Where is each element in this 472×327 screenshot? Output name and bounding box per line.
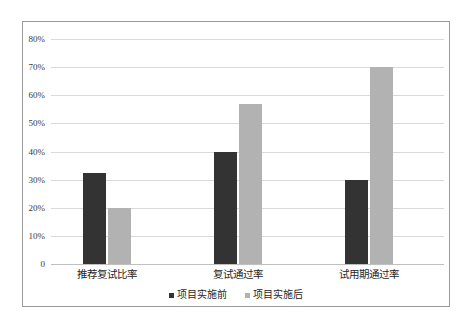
bar-group (83, 39, 131, 264)
chart-legend: 项目实施前项目实施后 (23, 290, 449, 300)
bar-0-1 (214, 152, 237, 265)
legend-swatch-icon (245, 293, 250, 298)
x-axis-category-label: 复试通过率 (213, 270, 263, 281)
plot-area: 010%20%30%40%50%60%70%80% (51, 39, 444, 264)
y-axis-tick-label: 50% (29, 119, 46, 128)
gridline (51, 264, 444, 265)
x-axis-category-label: 推荐复试比率 (77, 270, 137, 281)
bar-group (345, 39, 393, 264)
x-axis-category-label: 试用期通过率 (339, 270, 399, 281)
bar-1-0 (108, 208, 131, 264)
y-axis-tick-label: 10% (29, 231, 46, 240)
y-axis-tick-label: 30% (29, 175, 46, 184)
legend-label: 项目实施后 (253, 290, 303, 300)
legend-entry[interactable]: 项目实施前 (169, 290, 227, 300)
chart-container: 010%20%30%40%50%60%70%80% 推荐复试比率复试通过率试用期… (22, 21, 450, 307)
bar-0-0 (83, 173, 106, 264)
bar-1-1 (239, 104, 262, 264)
legend-swatch-icon (169, 293, 174, 298)
bar-0-2 (345, 180, 368, 264)
y-axis-tick-label: 0 (41, 260, 46, 269)
legend-entry[interactable]: 项目实施后 (245, 290, 303, 300)
y-axis-tick-label: 20% (29, 203, 46, 212)
y-axis-tick-label: 60% (29, 91, 46, 100)
bars-layer (51, 39, 444, 264)
y-axis-tick-label: 80% (29, 35, 46, 44)
y-axis-tick-label: 70% (29, 63, 46, 72)
bar-group (214, 39, 262, 264)
y-axis-tick-label: 40% (29, 147, 46, 156)
legend-label: 项目实施前 (177, 290, 227, 300)
bar-1-2 (370, 67, 393, 264)
x-axis-category-labels: 推荐复试比率复试通过率试用期通过率 (51, 270, 444, 290)
